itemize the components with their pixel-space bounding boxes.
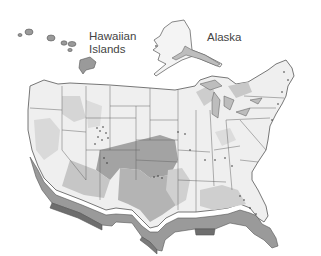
- hawaii-label-line2: Islands: [89, 43, 136, 56]
- alaska-label: Alaska: [207, 31, 242, 44]
- hawaii-label-line1: Hawaiian: [89, 30, 136, 43]
- hawaii-islands: [18, 29, 96, 74]
- hawaiian-islands-label: Hawaiian Islands: [89, 30, 136, 56]
- alaska-outline: [153, 20, 222, 76]
- us-map: [0, 0, 321, 256]
